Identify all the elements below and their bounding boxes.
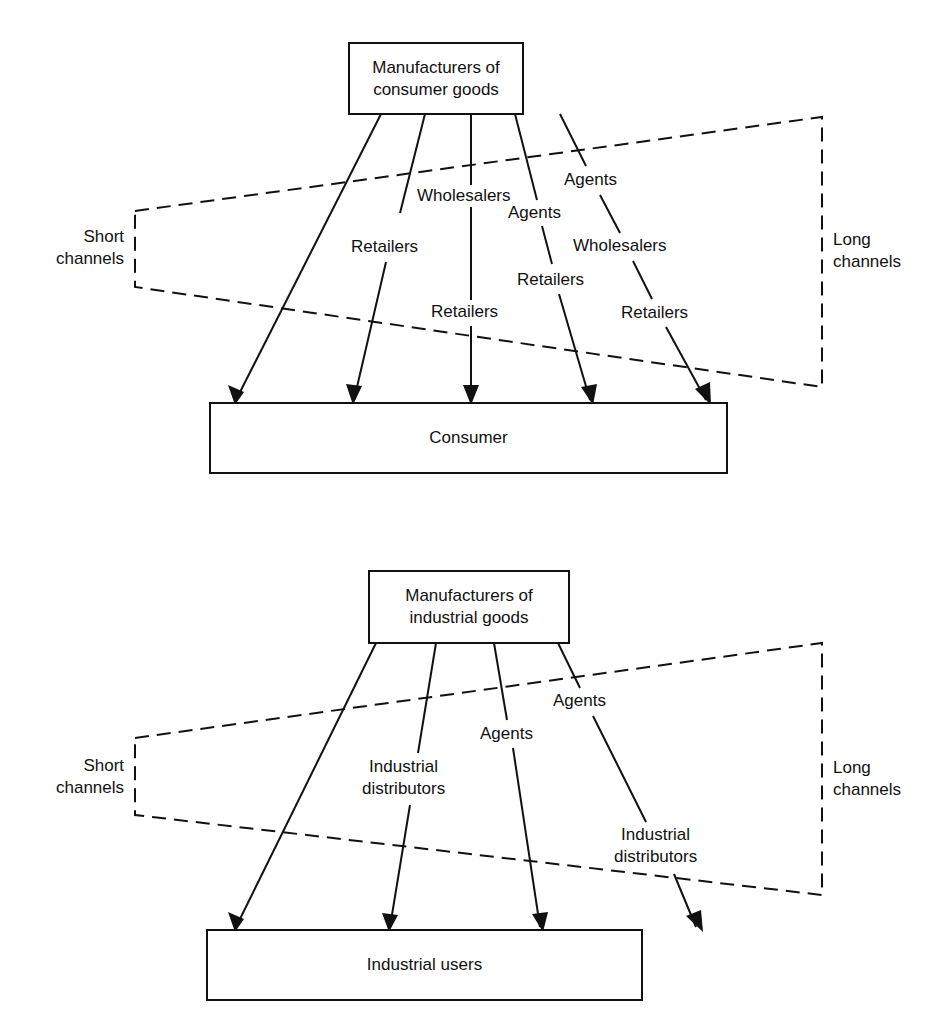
label-retailers: Retailers [429, 301, 500, 323]
label-wholesalers: Wholesalers [571, 235, 669, 257]
long-channels-label: Long channels [823, 757, 903, 801]
industrial-channels-region [135, 643, 822, 895]
arrow-long-a [558, 643, 580, 688]
arrow-agents-b [513, 748, 540, 927]
box-line-2: consumer goods [372, 79, 500, 101]
box-line-2: industrial goods [405, 607, 533, 629]
consumer-channels-region [135, 117, 822, 387]
label-retailers: Retailers [349, 236, 420, 258]
consumer-goods-manufacturers-box: Manufacturers of consumer goods [348, 42, 524, 115]
arrow-agents-a [494, 643, 507, 720]
channel-length-trapezoid [135, 117, 822, 387]
label-agents: Agents [478, 723, 535, 745]
label-agents: Agents [551, 690, 608, 712]
label-industrial-distributors: Industrial distributors [612, 824, 699, 868]
arrow-distributors-b [390, 805, 410, 927]
channel-length-trapezoid [135, 643, 822, 895]
short-channels-label: Short channels [54, 755, 126, 799]
label-industrial-distributors: Industrial distributors [360, 756, 447, 800]
long-channels-label: Long channels [823, 229, 903, 273]
industrial-users-label: Industrial users [367, 954, 482, 976]
arrow-direct [236, 643, 376, 927]
short-channels-label: Short channels [54, 226, 126, 270]
arrow-long-b [593, 716, 646, 822]
arrow-long-a [560, 114, 586, 166]
label-retailers: Retailers [515, 269, 586, 291]
arrow-long-c [633, 261, 652, 299]
box-line-1: Manufacturers of [372, 57, 500, 79]
industrial-users-box: Industrial users [206, 929, 643, 1001]
label-retailers: Retailers [619, 302, 690, 324]
arrow-long-b [600, 195, 620, 233]
label-agents: Agents [506, 202, 563, 224]
label-agents: Agents [562, 169, 619, 191]
arrow-agents-b [542, 226, 552, 264]
consumer-label: Consumer [429, 427, 507, 449]
industrial-arrows [236, 643, 696, 927]
arrow-agents-c [559, 294, 590, 400]
diagram-canvas [0, 0, 936, 1023]
consumer-arrows [236, 114, 706, 400]
arrow-retailers-b [354, 262, 386, 400]
box-line-1: Manufacturers of [405, 585, 533, 607]
consumer-box: Consumer [209, 402, 728, 474]
arrowhead-icon [686, 910, 703, 932]
industrial-goods-manufacturers-box: Manufacturers of industrial goods [368, 570, 570, 644]
label-wholesalers: Wholesalers [415, 185, 513, 207]
